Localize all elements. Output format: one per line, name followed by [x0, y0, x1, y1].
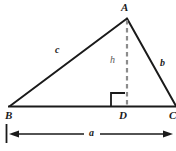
vertex-label-a: A [121, 2, 128, 13]
vertex-label-c: C [169, 110, 176, 121]
right-angle-marker-icon [111, 93, 125, 106]
arrowhead-left-icon [9, 131, 19, 138]
vertex-label-d: D [119, 110, 127, 121]
side-line-ac [127, 19, 176, 107]
vertex-label-b: B [5, 110, 12, 121]
dimension-label-a: a [89, 128, 94, 138]
arrowhead-right-icon [163, 131, 173, 138]
triangle-geometry-svg [0, 0, 176, 151]
altitude-label-h: h [110, 55, 115, 65]
side-label-c: c [55, 45, 59, 55]
triangle-diagram: A B C D c b h a [0, 0, 176, 151]
side-label-b: b [160, 58, 165, 68]
